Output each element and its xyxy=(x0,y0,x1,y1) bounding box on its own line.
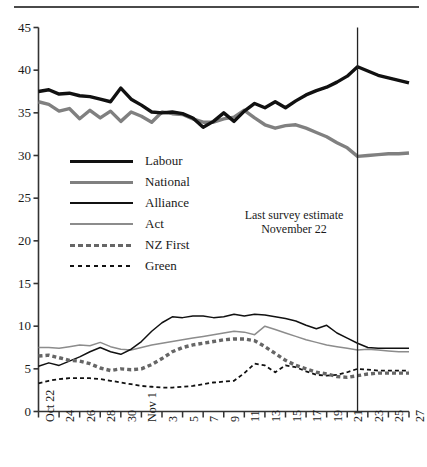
x-tick-label: 5 xyxy=(188,416,200,422)
legend-swatch xyxy=(70,181,133,184)
y-tick-label: 20 xyxy=(5,234,31,247)
legend-swatch xyxy=(70,223,133,225)
legend-item: Green xyxy=(70,257,210,278)
x-tick-label: 23 xyxy=(373,410,385,422)
legend-label: National xyxy=(145,173,190,191)
x-tick-label: 15 xyxy=(291,410,303,422)
line-chart-plot xyxy=(0,0,427,467)
legend-swatch xyxy=(70,160,133,163)
y-tick-label: 5 xyxy=(5,362,31,375)
x-tick-label: 24 xyxy=(64,410,76,422)
legend-swatch xyxy=(70,244,133,247)
y-tick-label: 30 xyxy=(5,149,31,162)
y-tick-label: 10 xyxy=(5,319,31,332)
y-tick-label: 15 xyxy=(5,277,31,290)
y-tick-label: 35 xyxy=(5,106,31,119)
y-tick-label: 0 xyxy=(5,405,31,418)
survey-annotation: Last survey estimate November 22 xyxy=(238,208,350,236)
legend-label: Alliance xyxy=(145,194,189,212)
legend-item: Act xyxy=(70,215,210,236)
x-tick-label: 7 xyxy=(208,416,220,422)
series-line xyxy=(39,102,410,157)
legend-item: National xyxy=(70,173,210,194)
x-tick-label: 28 xyxy=(105,410,117,422)
x-tick-label: 19 xyxy=(332,410,344,422)
annotation-line-1: Last survey estimate xyxy=(238,208,350,222)
x-tick-label: 13 xyxy=(270,410,282,422)
x-tick-label: 25 xyxy=(393,410,405,422)
x-tick-label: 17 xyxy=(311,410,323,422)
y-tick-label: 45 xyxy=(5,21,31,34)
x-tick-label: Nov 1 xyxy=(146,392,158,422)
series-line xyxy=(39,326,410,352)
x-tick-label: Oct 22 xyxy=(44,389,56,421)
annotation-line-2: November 22 xyxy=(238,222,350,236)
x-tick-label: 3 xyxy=(167,416,179,422)
legend-item: Labour xyxy=(70,152,210,173)
legend-label: Labour xyxy=(145,152,183,170)
series-line xyxy=(39,314,410,366)
legend-label: Act xyxy=(145,215,164,233)
x-tick-label: 27 xyxy=(414,410,426,422)
y-tick-label: 40 xyxy=(5,63,31,76)
x-tick-label: 26 xyxy=(85,410,97,422)
x-tick-label: 9 xyxy=(229,416,241,422)
chart-legend: LabourNationalAllianceActNZ FirstGreen xyxy=(70,152,210,278)
legend-swatch xyxy=(70,265,133,267)
legend-label: Green xyxy=(145,257,177,275)
legend-label: NZ First xyxy=(145,236,189,254)
legend-item: Alliance xyxy=(70,194,210,215)
x-tick-label: 21 xyxy=(352,410,364,422)
legend-swatch xyxy=(70,202,133,204)
x-tick-label: 11 xyxy=(249,410,261,422)
y-tick-label: 25 xyxy=(5,191,31,204)
chart-figure: 051015202530354045 Oct 2224262830Nov 135… xyxy=(0,0,427,467)
legend-item: NZ First xyxy=(70,236,210,257)
x-tick-label: 30 xyxy=(126,410,138,422)
